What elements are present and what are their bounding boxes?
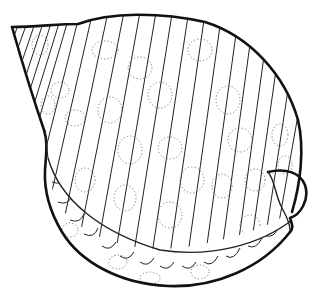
shell-drawing [0, 0, 309, 300]
ribs [5, 12, 298, 254]
shell-outline [12, 15, 306, 286]
shell-illustration: tun shell line drawing [0, 0, 309, 300]
aperture-band [52, 176, 278, 284]
